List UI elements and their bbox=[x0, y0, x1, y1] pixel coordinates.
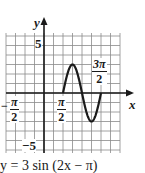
y-tick-5: 5 bbox=[35, 37, 42, 50]
x-axis-arrow-icon bbox=[126, 90, 134, 97]
y-axis-arrow-icon bbox=[41, 17, 48, 25]
x-tick-neg-sign: − bbox=[1, 100, 8, 112]
y-tick-neg5: −5 bbox=[22, 139, 36, 152]
x-tick-pi-over-2: π 2 bbox=[57, 96, 66, 123]
x-axis-label: x bbox=[129, 98, 136, 111]
x-tick-neg-pi-over-2: π 2 bbox=[10, 96, 19, 123]
equation-caption: y = 3 sin (2x − π) bbox=[0, 158, 145, 173]
x-tick-3pi-over-2: 3π 2 bbox=[92, 58, 107, 85]
y-axis-label: y bbox=[34, 16, 40, 29]
